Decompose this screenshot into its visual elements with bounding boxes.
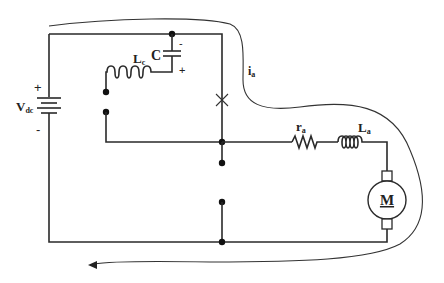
armature-inductor-coil (338, 136, 387, 171)
armature-inductor-label: La (358, 120, 371, 136)
circuit-diagram: + - Vdc C - + Lc ra La M ia (0, 0, 444, 283)
capacitor-plus-sign: + (179, 64, 185, 76)
commutation-inductor-label: Lc (133, 51, 146, 67)
dc-source-battery (37, 98, 61, 113)
current-label: ia (248, 64, 255, 79)
motor-label: M (380, 192, 394, 208)
capacitor-minus-sign: - (179, 37, 183, 49)
capacitor-symbol (163, 51, 181, 56)
switch-contact-upper (103, 89, 109, 95)
capacitor-label: C (151, 48, 161, 63)
bottom-wire-right (222, 226, 387, 242)
left-wire-lower (49, 113, 222, 242)
current-direction-arrow-icon (88, 261, 97, 269)
commutation-inductor-coil (106, 66, 154, 92)
armature-resistor-label: ra (296, 119, 306, 135)
node-bottom (219, 239, 225, 245)
source-label: Vdc (16, 99, 34, 115)
freewheel-contact-upper (219, 160, 225, 166)
source-plus-sign: + (34, 80, 42, 95)
source-minus-sign: - (36, 122, 40, 137)
armature-resistor-symbol (292, 136, 338, 148)
